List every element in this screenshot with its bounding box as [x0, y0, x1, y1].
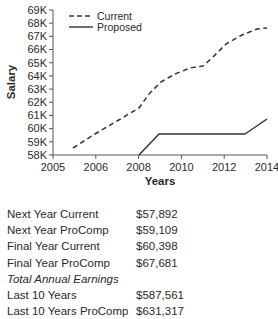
- line-proposed: [139, 119, 267, 155]
- x-tick-label: 2006: [84, 161, 108, 173]
- total-row: Last 10 Years ProComp$631,317: [7, 303, 267, 319]
- x-tick-label: 2010: [169, 161, 193, 173]
- y-axis: 58K59K60K61K62K63K64K65K66K67K68K69K: [27, 4, 53, 161]
- y-tick-label: 58K: [27, 149, 47, 161]
- x-tick-label: 2012: [212, 161, 236, 173]
- y-tick-label: 64K: [27, 70, 47, 82]
- x-axis-label: Years: [145, 175, 176, 187]
- summary-row: Next Year Current$57,892: [7, 206, 267, 222]
- total-row: Last 10 Years$587,561: [7, 287, 267, 303]
- y-tick-label: 69K: [27, 4, 47, 16]
- series-lines: [73, 28, 267, 155]
- summary-row: Final Year Current$60,398: [7, 238, 267, 254]
- y-tick-label: 67K: [27, 30, 47, 42]
- x-tick-label: 2008: [126, 161, 150, 173]
- salary-chart: 58K59K60K61K62K63K64K65K66K67K68K69K 200…: [0, 0, 278, 200]
- y-tick-label: 65K: [27, 57, 47, 69]
- line-current: [73, 28, 267, 148]
- x-tick-label: 2014: [255, 161, 278, 173]
- y-tick-label: 59K: [27, 136, 47, 148]
- section-title: Total Annual Earnings: [7, 271, 267, 287]
- y-tick-label: 63K: [27, 83, 47, 95]
- x-tick-label: 2005: [41, 161, 65, 173]
- y-axis-label: Salary: [5, 64, 17, 99]
- y-tick-label: 62K: [27, 96, 47, 108]
- salary-summary: Next Year Current$57,892 Next Year ProCo…: [7, 206, 267, 319]
- summary-row: Final Year ProComp$67,681: [7, 255, 267, 271]
- y-tick-label: 61K: [27, 109, 47, 121]
- y-tick-label: 68K: [27, 17, 47, 29]
- x-axis: 200520062008201020122014: [41, 155, 278, 173]
- legend-label-proposed: Proposed: [97, 21, 142, 33]
- y-tick-label: 66K: [27, 43, 47, 55]
- y-tick-label: 60K: [27, 122, 47, 134]
- legend: Current Proposed: [69, 10, 142, 33]
- summary-row: Next Year ProComp$59,109: [7, 222, 267, 238]
